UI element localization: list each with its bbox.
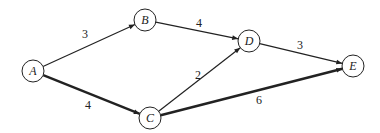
node-D: D (238, 30, 260, 52)
edge-weight-label: 4 (85, 98, 91, 112)
edge-weight-label: 4 (196, 16, 202, 30)
edge-A-C (43, 75, 140, 114)
node-label: B (141, 13, 149, 27)
node-A: A (22, 60, 44, 82)
node-E: E (342, 55, 364, 77)
edge-weight-label: 3 (297, 38, 303, 52)
edge-weight-label: 2 (195, 68, 201, 82)
graph-canvas: 344236 ABCDE (0, 0, 380, 133)
edge-A-B (43, 25, 135, 67)
edge-weight-label: 6 (256, 93, 262, 107)
edge-weight-label: 3 (82, 27, 88, 41)
graph-diagram: 344236 ABCDE (0, 0, 380, 133)
node-label: C (146, 111, 155, 125)
node-label: E (348, 59, 357, 73)
edge-C-E (161, 69, 343, 116)
node-label: A (28, 64, 37, 78)
node-label: D (244, 34, 254, 48)
node-B: B (134, 9, 156, 31)
node-C: C (139, 107, 161, 129)
